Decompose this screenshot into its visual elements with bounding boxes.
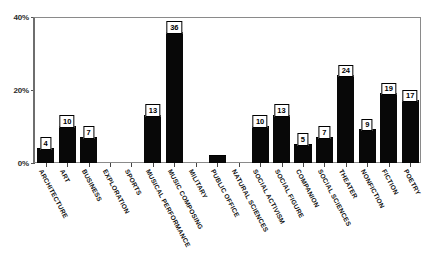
x-axis-tick-mark bbox=[324, 163, 325, 167]
x-axis-tick-mark bbox=[67, 163, 68, 167]
x-axis-tick-mark bbox=[260, 163, 261, 167]
bar-value-label: 10 bbox=[252, 115, 267, 128]
x-axis-tick-mark bbox=[282, 163, 283, 167]
bar-value-label: 4 bbox=[40, 137, 51, 150]
x-axis-tick-mark bbox=[46, 163, 47, 167]
bar[interactable]: 5 bbox=[294, 144, 311, 163]
bar-slot bbox=[121, 18, 142, 163]
x-axis-tick-mark bbox=[217, 163, 218, 167]
x-axis-tick-mark bbox=[174, 163, 175, 167]
x-axis-category-label: FICTION bbox=[381, 168, 400, 196]
bar-slot: 19 bbox=[378, 18, 399, 163]
x-axis-category-label: MILITARY bbox=[188, 168, 209, 200]
x-axis-tick-mark bbox=[303, 163, 304, 167]
bar-value-label: 36 bbox=[167, 21, 182, 34]
bar-slot: 5 bbox=[292, 18, 313, 163]
x-axis-tick-mark bbox=[196, 163, 197, 167]
x-axis-tick-mark bbox=[410, 163, 411, 167]
bar-value-label: 13 bbox=[274, 104, 289, 117]
x-axis-tick-mark bbox=[239, 163, 240, 167]
bar-slot: 7 bbox=[78, 18, 99, 163]
x-axis-tick-mark bbox=[110, 163, 111, 167]
bar-slot: 4 bbox=[35, 18, 56, 163]
bar-slot: 9 bbox=[357, 18, 378, 163]
bar[interactable]: 9 bbox=[359, 129, 376, 163]
bar[interactable]: 7 bbox=[316, 137, 333, 163]
bar-value-label: 10 bbox=[59, 115, 74, 128]
bar[interactable]: 10 bbox=[59, 126, 76, 163]
x-axis-category-label: COMPANION bbox=[295, 168, 321, 209]
bar-slot: 13 bbox=[142, 18, 163, 163]
x-axis-tick-mark bbox=[389, 163, 390, 167]
bar-value-label: 9 bbox=[362, 119, 373, 132]
bar-slot: 10 bbox=[249, 18, 270, 163]
bar-slot: 7 bbox=[314, 18, 335, 163]
y-axis-tick-label-0: 0% bbox=[3, 159, 29, 168]
bar-value-label: 7 bbox=[319, 126, 330, 139]
bar-slot: 36 bbox=[164, 18, 185, 163]
bar-chart: 40% 20% 0% 410713361013572491917 ARCHITE… bbox=[0, 0, 429, 257]
bar-value-label: 7 bbox=[83, 126, 94, 139]
x-axis-tick-mark bbox=[131, 163, 132, 167]
x-axis-category-label: THEATER bbox=[338, 168, 359, 200]
bar-slot: 24 bbox=[335, 18, 356, 163]
x-axis-tick-mark bbox=[89, 163, 90, 167]
y-axis-tick-label-40: 40% bbox=[3, 13, 29, 22]
bar-slot bbox=[207, 18, 228, 163]
bar-slot bbox=[99, 18, 120, 163]
bar-slot: 13 bbox=[271, 18, 292, 163]
bar[interactable]: 7 bbox=[80, 137, 97, 163]
bars-container: 410713361013572491917 bbox=[35, 18, 421, 163]
bar-value-label: 24 bbox=[338, 65, 353, 78]
bar-slot bbox=[228, 18, 249, 163]
bar[interactable]: 13 bbox=[273, 115, 290, 163]
bar[interactable]: 24 bbox=[337, 75, 354, 163]
y-axis-tick-label-20: 20% bbox=[3, 86, 29, 95]
bar-value-label: 13 bbox=[145, 104, 160, 117]
bar-slot: 10 bbox=[56, 18, 77, 163]
x-axis-category-label: SPORTS bbox=[124, 168, 143, 196]
bar[interactable]: 36 bbox=[166, 32, 183, 164]
bar[interactable] bbox=[209, 155, 226, 163]
bar[interactable]: 13 bbox=[144, 115, 161, 163]
bar[interactable]: 17 bbox=[402, 100, 419, 163]
bar-value-label: 5 bbox=[297, 133, 308, 146]
bar[interactable]: 4 bbox=[37, 148, 54, 164]
x-axis-tick-mark bbox=[153, 163, 154, 167]
bar[interactable]: 19 bbox=[380, 93, 397, 163]
x-axis-category-label: ART bbox=[59, 168, 72, 184]
bar-value-label: 19 bbox=[381, 83, 396, 96]
x-axis-tick-mark bbox=[346, 163, 347, 167]
bar-value-label: 17 bbox=[402, 90, 417, 103]
bar-slot: 17 bbox=[399, 18, 420, 163]
x-axis-category-label: POETRY bbox=[402, 168, 421, 196]
x-axis-category-label: MUSICAL PERFORMANCE bbox=[145, 168, 192, 248]
bar-slot bbox=[185, 18, 206, 163]
x-axis-tick-mark bbox=[367, 163, 368, 167]
x-axis-labels: ARCHITECTUREARTBUSINESSEXPLORATIONSPORTS… bbox=[35, 168, 421, 257]
bar[interactable]: 10 bbox=[252, 126, 269, 163]
x-axis-category-label: NATURAL SCIENCES bbox=[231, 168, 270, 233]
x-axis-category-label: BUSINESS bbox=[81, 168, 104, 202]
